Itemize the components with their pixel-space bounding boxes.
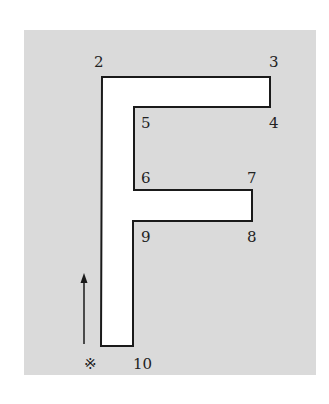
point-label-7: 7 [247, 169, 257, 187]
start-marker-icon: ※ [84, 355, 97, 373]
point-label-5: 5 [141, 114, 151, 132]
point-label-8: 8 [247, 228, 257, 246]
point-label-3: 3 [269, 53, 279, 71]
point-label-4: 4 [269, 114, 279, 132]
point-label-9: 9 [141, 228, 151, 246]
point-label-2: 2 [94, 53, 104, 71]
point-label-6: 6 [141, 169, 151, 187]
f-shape-outline [101, 77, 270, 346]
point-label-10: 10 [133, 355, 152, 373]
arrow-up-icon [81, 273, 88, 283]
f-shape-diagram: 2345678910 ※ [0, 0, 329, 404]
